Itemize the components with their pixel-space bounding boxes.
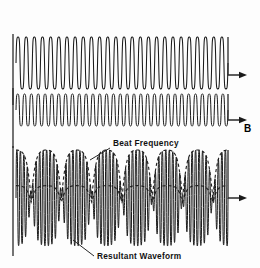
figure-letter-label: B — [244, 123, 251, 134]
beat-frequency-figure: B Beat Frequency Resultant Waveform — [0, 0, 260, 268]
waveform-diagram: B Beat Frequency Resultant Waveform — [0, 0, 260, 268]
resultant-waveform-label: Resultant Waveform — [97, 251, 181, 261]
beat-frequency-label: Beat Frequency — [113, 138, 179, 148]
